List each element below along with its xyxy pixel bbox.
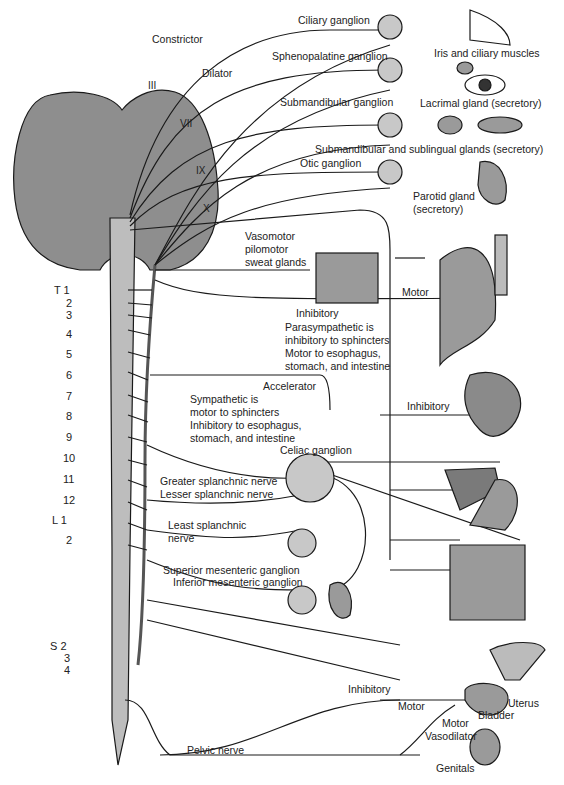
label-sweat-glands: sweat glands	[245, 256, 306, 268]
segment-l1: L 1	[52, 514, 67, 526]
segment-t8: 8	[66, 410, 72, 422]
label-motor-bladder: Motor	[398, 700, 425, 712]
lacrimal-gland	[457, 62, 473, 74]
label-symp-3: Inhibitory to esophagus,	[190, 419, 302, 431]
heart	[465, 372, 521, 436]
label-uterus: Uterus	[508, 697, 539, 709]
label-inhibitory-bladder: Inhibitory	[348, 683, 391, 695]
submandibular-gland	[438, 116, 462, 134]
segment-l2: 2	[66, 534, 72, 546]
label-submandibular-glands: Submandibular and sublingual glands (sec…	[315, 143, 543, 155]
segment-t3: 3	[66, 309, 72, 321]
label-superior-mesenteric: Superior mesenteric ganglion	[163, 564, 300, 576]
label-bladder: Bladder	[478, 709, 514, 721]
label-accelerator: Accelerator	[263, 380, 316, 392]
segment-t5: 5	[66, 348, 72, 360]
label-least-splanchnic-2: nerve	[168, 532, 194, 544]
label-least-splanchnic-1: Least splanchnic	[168, 519, 246, 531]
cranial-nerve-x: X	[203, 203, 210, 214]
label-lesser-splanchnic: Lesser splanchnic nerve	[160, 488, 273, 500]
label-motor-lung: Motor	[402, 286, 429, 298]
cranial-nerve-vii: VII	[180, 118, 192, 129]
segment-s2: S 2	[50, 640, 67, 652]
submandibular-ganglion	[378, 113, 402, 137]
segment-t2: 2	[66, 297, 72, 309]
label-motor-genitals: Motor	[442, 717, 469, 729]
segment-s4: 4	[64, 664, 70, 676]
segment-t9: 9	[66, 431, 72, 443]
label-pilomotor: pilomotor	[245, 243, 288, 255]
label-sphenopalatine: Sphenopalatine ganglion	[272, 50, 388, 62]
segment-t10: 10	[63, 452, 75, 464]
ciliary-ganglion	[378, 15, 402, 39]
label-vasodilator: Vasodilator	[425, 730, 477, 742]
label-symp-1: Sympathetic is	[190, 393, 258, 405]
label-symp-4: stomach, and intestine	[190, 432, 295, 444]
spinal-cord	[110, 218, 135, 765]
trachea	[495, 235, 507, 295]
autonomic-nervous-system-diagram	[0, 0, 564, 785]
label-inhibitory-lung: Inhibitory	[296, 307, 339, 319]
parotid-gland	[478, 162, 506, 205]
intestines	[450, 545, 525, 620]
celiac-ganglion	[286, 454, 334, 502]
label-para-4: stomach, and intestine	[285, 360, 390, 372]
label-para-1: Parasympathetic is	[285, 321, 374, 333]
label-inferior-mesenteric: Inferior mesenteric ganglion	[173, 576, 303, 588]
label-constrictor: Constrictor	[152, 33, 203, 45]
segment-t7: 7	[66, 390, 72, 402]
cranial-nerve-ix: IX	[196, 165, 205, 176]
skin	[316, 253, 378, 303]
kidney	[329, 582, 351, 618]
otic-ganglion	[378, 160, 402, 184]
label-pelvic-nerve: Pelvic nerve	[187, 744, 244, 756]
label-para-3: Motor to esophagus,	[285, 347, 381, 359]
segment-t1: T 1	[54, 284, 70, 296]
label-otic-ganglion: Otic ganglion	[300, 157, 361, 169]
segment-t11: 11	[63, 473, 74, 485]
label-inhibitory-heart: Inhibitory	[407, 400, 450, 412]
label-greater-splanchnic: Greater splanchnic nerve	[160, 475, 277, 487]
uterus	[490, 643, 545, 681]
label-submandibular-ganglion: Submandibular ganglion	[280, 96, 393, 108]
segment-t6: 6	[66, 369, 72, 381]
cranial-nerve-iii: III	[148, 80, 156, 91]
superior-mesenteric-ganglion	[288, 529, 316, 557]
label-ciliary-ganglion: Ciliary ganglion	[298, 14, 370, 26]
label-symp-2: motor to sphincters	[190, 406, 279, 418]
segment-s3: 3	[64, 652, 70, 664]
label-dilator: Dilator	[202, 67, 232, 79]
label-celiac-ganglion: Celiac ganglion	[280, 444, 352, 456]
label-parotid-2: (secretory)	[413, 203, 463, 215]
label-parotid-1: Parotid gland	[413, 190, 475, 202]
segment-t4: 4	[66, 328, 72, 340]
eye-iris	[470, 10, 510, 45]
label-lacrimal: Lacrimal gland (secretory)	[420, 97, 541, 109]
segment-t12: 12	[63, 494, 75, 506]
label-iris-ciliary: Iris and ciliary muscles	[434, 47, 540, 59]
sublingual-gland	[478, 117, 522, 133]
label-genitals: Genitals	[436, 762, 475, 774]
label-para-2: inhibitory to sphincters	[285, 334, 389, 346]
label-vasomotor: Vasomotor	[245, 230, 295, 242]
lung	[440, 248, 496, 365]
inferior-mesenteric-ganglion	[288, 586, 316, 614]
